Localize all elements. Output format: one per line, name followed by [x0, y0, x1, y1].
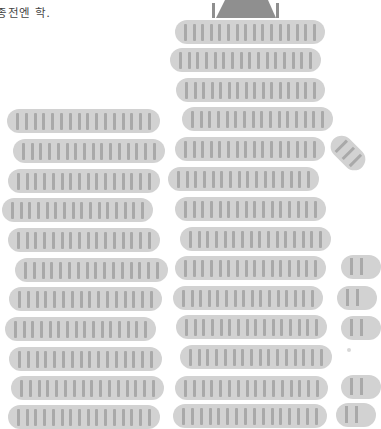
seat[interactable] — [280, 319, 283, 336]
center-row-2[interactable] — [170, 48, 321, 72]
seat[interactable] — [52, 173, 55, 190]
seat[interactable] — [304, 82, 307, 99]
seat[interactable] — [97, 291, 100, 308]
seat[interactable] — [319, 231, 322, 248]
seat[interactable] — [243, 111, 246, 128]
seat[interactable] — [201, 260, 204, 277]
seat[interactable] — [196, 52, 199, 69]
seat[interactable] — [206, 349, 209, 366]
left-row-3[interactable] — [8, 169, 160, 193]
seat[interactable] — [124, 202, 127, 219]
seat[interactable] — [222, 52, 225, 69]
seat[interactable] — [152, 380, 155, 397]
seat[interactable] — [83, 321, 86, 338]
seat[interactable] — [246, 171, 249, 188]
seat[interactable] — [284, 231, 287, 248]
seat[interactable] — [28, 202, 31, 219]
seat[interactable] — [253, 82, 256, 99]
seat[interactable] — [288, 408, 291, 425]
seat[interactable] — [297, 260, 300, 277]
seat[interactable] — [22, 143, 25, 160]
seat[interactable] — [194, 82, 197, 99]
seat[interactable] — [20, 202, 23, 219]
seat[interactable] — [315, 319, 318, 336]
seat[interactable] — [215, 231, 218, 248]
seat[interactable] — [350, 319, 353, 336]
left-row-11[interactable] — [8, 405, 160, 429]
seat[interactable] — [202, 82, 205, 99]
seat[interactable] — [307, 171, 310, 188]
seat[interactable] — [355, 406, 358, 423]
left-row-7[interactable] — [9, 287, 162, 311]
seat[interactable] — [215, 349, 218, 366]
seat[interactable] — [278, 111, 281, 128]
seat[interactable] — [106, 291, 109, 308]
seat[interactable] — [184, 380, 187, 397]
seat[interactable] — [238, 171, 241, 188]
seat[interactable] — [18, 291, 21, 308]
seat[interactable] — [206, 231, 209, 248]
seat[interactable] — [202, 380, 205, 397]
center-row-10[interactable] — [173, 286, 323, 310]
seat[interactable] — [231, 52, 234, 69]
seat[interactable] — [236, 24, 239, 41]
seat[interactable] — [226, 408, 229, 425]
seat[interactable] — [262, 260, 265, 277]
seat[interactable] — [90, 380, 93, 397]
seat[interactable] — [104, 113, 107, 130]
seat[interactable] — [271, 201, 274, 218]
seat[interactable] — [217, 111, 220, 128]
seat[interactable] — [184, 260, 187, 277]
seat[interactable] — [302, 349, 305, 366]
seat[interactable] — [288, 201, 291, 218]
seat[interactable] — [106, 351, 109, 368]
seat[interactable] — [288, 260, 291, 277]
seat[interactable] — [201, 201, 204, 218]
seat[interactable] — [193, 141, 196, 158]
seat[interactable] — [236, 260, 239, 277]
seat[interactable] — [295, 111, 298, 128]
seat[interactable] — [304, 141, 307, 158]
seat[interactable] — [115, 291, 118, 308]
seat[interactable] — [194, 319, 197, 336]
right-row-2[interactable] — [337, 286, 377, 310]
seat[interactable] — [121, 262, 124, 279]
seat[interactable] — [293, 231, 296, 248]
seat[interactable] — [69, 113, 72, 130]
seat[interactable] — [144, 321, 147, 338]
seat[interactable] — [34, 173, 37, 190]
seat[interactable] — [191, 408, 194, 425]
seat[interactable] — [277, 290, 280, 307]
seat[interactable] — [92, 321, 95, 338]
seat[interactable] — [346, 289, 349, 306]
seat[interactable] — [281, 380, 284, 397]
seat[interactable] — [95, 232, 98, 249]
seat[interactable] — [52, 409, 55, 426]
seat[interactable] — [148, 173, 151, 190]
seat[interactable] — [211, 319, 214, 336]
seat[interactable] — [104, 409, 107, 426]
seat[interactable] — [234, 111, 237, 128]
seat[interactable] — [113, 173, 116, 190]
seat[interactable] — [297, 408, 300, 425]
seat[interactable] — [312, 111, 315, 128]
seat[interactable] — [311, 349, 314, 366]
seat[interactable] — [55, 380, 58, 397]
seat[interactable] — [220, 171, 223, 188]
seat[interactable] — [203, 171, 206, 188]
seat[interactable] — [314, 260, 317, 277]
seat[interactable] — [130, 262, 133, 279]
seat[interactable] — [236, 141, 239, 158]
seat[interactable] — [219, 201, 222, 218]
seat[interactable] — [307, 380, 310, 397]
seat[interactable] — [242, 290, 245, 307]
seat[interactable] — [104, 232, 107, 249]
seat[interactable] — [342, 147, 355, 160]
seat[interactable] — [31, 143, 34, 160]
seat[interactable] — [78, 113, 81, 130]
center-row-11[interactable] — [176, 315, 327, 339]
seat[interactable] — [117, 380, 120, 397]
seat[interactable] — [227, 260, 230, 277]
seat[interactable] — [306, 319, 309, 336]
seat[interactable] — [130, 409, 133, 426]
